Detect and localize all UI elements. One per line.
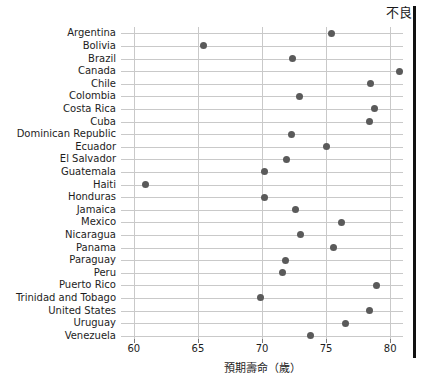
row-gridline [121, 84, 403, 85]
x-tick-label: 75 [320, 344, 333, 354]
row-gridline [121, 71, 403, 72]
data-point [283, 156, 290, 163]
x-axis-labels: 6065707580 [121, 344, 403, 360]
row-gridline [121, 273, 403, 274]
data-point [261, 168, 268, 175]
row-gridline [121, 248, 403, 249]
data-point [338, 219, 345, 226]
data-point [366, 118, 373, 125]
data-point [279, 269, 286, 276]
x-tick-label: 65 [192, 344, 205, 354]
y-tick-label: Nicaragua [65, 230, 116, 240]
y-tick-label: Chile [91, 79, 116, 89]
y-tick-label: Trinidad and Tobago [16, 293, 116, 303]
y-tick-label: Cuba [90, 117, 116, 127]
row-gridline [121, 147, 403, 148]
x-tick-mark [134, 339, 135, 343]
y-tick-label: Mexico [81, 217, 116, 227]
plot-area [121, 27, 403, 342]
data-point [373, 282, 380, 289]
data-point [288, 131, 295, 138]
row-gridline [121, 185, 403, 186]
data-point [200, 42, 207, 49]
y-tick-label: Dominican Republic [17, 129, 116, 139]
data-point [257, 294, 264, 301]
data-point [342, 320, 349, 327]
data-point [142, 181, 149, 188]
y-tick-label: Puerto Rico [59, 280, 116, 290]
y-tick-label: Costa Rica [63, 104, 116, 114]
data-point [292, 206, 299, 213]
data-point [289, 55, 296, 62]
data-point [366, 307, 373, 314]
data-point [261, 194, 268, 201]
row-gridline [121, 260, 403, 261]
row-gridline [121, 336, 403, 337]
row-gridline [121, 222, 403, 223]
row-gridline [121, 235, 403, 236]
data-point [330, 244, 337, 251]
data-point [282, 257, 289, 264]
y-tick-label: Canada [78, 66, 116, 76]
row-gridline [121, 46, 403, 47]
annotation-top-right: 不良 [386, 6, 412, 19]
right-edge-rule [413, 6, 416, 358]
dot-plot-figure: 不良 ArgentinaBoliviaBrazilCanadaChileColo… [0, 0, 426, 388]
y-tick-label: Bolivia [83, 41, 116, 51]
x-tick-mark [390, 339, 391, 343]
row-gridline [121, 159, 403, 160]
x-tick-label: 60 [127, 344, 140, 354]
row-gridline [121, 285, 403, 286]
y-tick-label: Panama [76, 243, 116, 253]
y-tick-label: Peru [94, 268, 116, 278]
y-tick-label: Haiti [93, 180, 116, 190]
y-tick-label: Jamaica [77, 205, 116, 215]
row-gridline [121, 311, 403, 312]
y-axis-labels: ArgentinaBoliviaBrazilCanadaChileColombi… [0, 27, 116, 342]
x-axis-title: 預期壽命（歲） [121, 363, 403, 374]
y-tick-label: Brazil [88, 54, 116, 64]
y-tick-label: United States [48, 306, 116, 316]
row-gridline [121, 323, 403, 324]
y-tick-label: Honduras [68, 192, 116, 202]
x-tick-mark [262, 339, 263, 343]
row-gridline [121, 210, 403, 211]
y-tick-label: Guatemala [61, 167, 116, 177]
x-tick-label: 80 [384, 344, 397, 354]
y-tick-label: Uruguay [74, 318, 117, 328]
data-point [297, 231, 304, 238]
data-point [367, 80, 374, 87]
x-tick-mark [198, 339, 199, 343]
x-tick-label: 70 [256, 344, 269, 354]
y-tick-label: Venezuela [65, 331, 116, 341]
x-tick-mark [326, 339, 327, 343]
row-gridline [121, 33, 403, 34]
row-gridline [121, 134, 403, 135]
y-tick-label: Paraguay [69, 255, 116, 265]
data-point [296, 93, 303, 100]
row-gridline [121, 59, 403, 60]
data-point [396, 68, 403, 75]
y-tick-label: Colombia [69, 91, 116, 101]
row-gridline [121, 122, 403, 123]
y-tick-label: Argentina [67, 28, 116, 38]
data-point [328, 30, 335, 37]
data-point [323, 143, 330, 150]
row-gridline [121, 96, 403, 97]
y-tick-label: Ecuador [75, 142, 116, 152]
data-point [371, 105, 378, 112]
y-tick-label: El Salvador [60, 154, 116, 164]
data-point [307, 332, 314, 339]
row-gridline [121, 109, 403, 110]
